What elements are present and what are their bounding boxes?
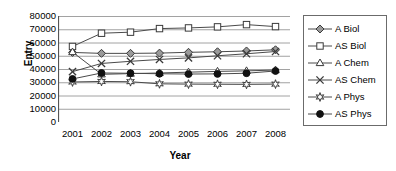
legend-label: AS Phys	[333, 109, 371, 119]
legend-item[interactable]: A Chem	[307, 54, 383, 71]
x-tick-label: 2007	[231, 129, 263, 139]
legend-marker	[307, 90, 333, 104]
legend-item[interactable]: A Phys	[307, 88, 383, 105]
chart-figure: Entry Year 80000700006000050000400003000…	[0, 0, 396, 171]
x-tick-label: 2005	[173, 129, 205, 139]
marker-filled-diamond	[214, 48, 222, 56]
marker-filled-circle	[69, 76, 76, 83]
legend-item[interactable]: AS Phys	[307, 105, 383, 122]
plot-area	[58, 16, 290, 122]
marker-filled-circle	[214, 71, 221, 78]
marker-filled-circle	[156, 70, 163, 77]
marker-open-square	[98, 30, 104, 36]
marker-filled-circle	[272, 68, 279, 75]
legend-item[interactable]: AS Chem	[307, 71, 383, 88]
marker-filled-circle	[185, 71, 192, 78]
marker-open-triangle	[316, 59, 324, 66]
marker-filled-circle	[243, 70, 250, 77]
marker-filled-diamond	[316, 25, 324, 33]
marker-open-square	[156, 25, 162, 31]
x-tick-label: 2008	[260, 129, 292, 139]
marker-open-square	[272, 23, 278, 29]
marker-filled-circle	[317, 110, 324, 117]
legend-marker	[307, 73, 333, 87]
legend-marker	[307, 107, 333, 121]
legend-marker	[307, 39, 333, 53]
marker-open-square	[127, 29, 133, 35]
x-tick-label: 2006	[202, 129, 234, 139]
legend-label: A Phys	[333, 92, 365, 102]
marker-open-square	[243, 21, 249, 27]
marker-filled-diamond	[272, 46, 280, 54]
marker-open-square	[317, 42, 323, 48]
marker-filled-circle	[98, 70, 105, 77]
marker-filled-circle	[127, 70, 134, 77]
x-tick-label: 2001	[57, 129, 89, 139]
legend-marker	[307, 56, 333, 70]
legend-marker	[307, 22, 333, 36]
marker-open-square	[185, 25, 191, 31]
x-tick-label: 2002	[86, 129, 118, 139]
chart-legend: A BiolAS BiolA ChemAS ChemA PhysAS Phys	[303, 15, 387, 126]
x-tick-label: 2003	[115, 129, 147, 139]
series-as-biol	[69, 21, 278, 49]
legend-label: A Biol	[333, 24, 359, 34]
legend-label: AS Biol	[333, 41, 366, 51]
x-tick-label: 2004	[144, 129, 176, 139]
legend-item[interactable]: AS Biol	[307, 37, 383, 54]
legend-item[interactable]: A Biol	[307, 20, 383, 37]
legend-label: A Chem	[333, 58, 369, 68]
legend-label: AS Chem	[333, 75, 376, 85]
marker-open-square	[214, 24, 220, 30]
